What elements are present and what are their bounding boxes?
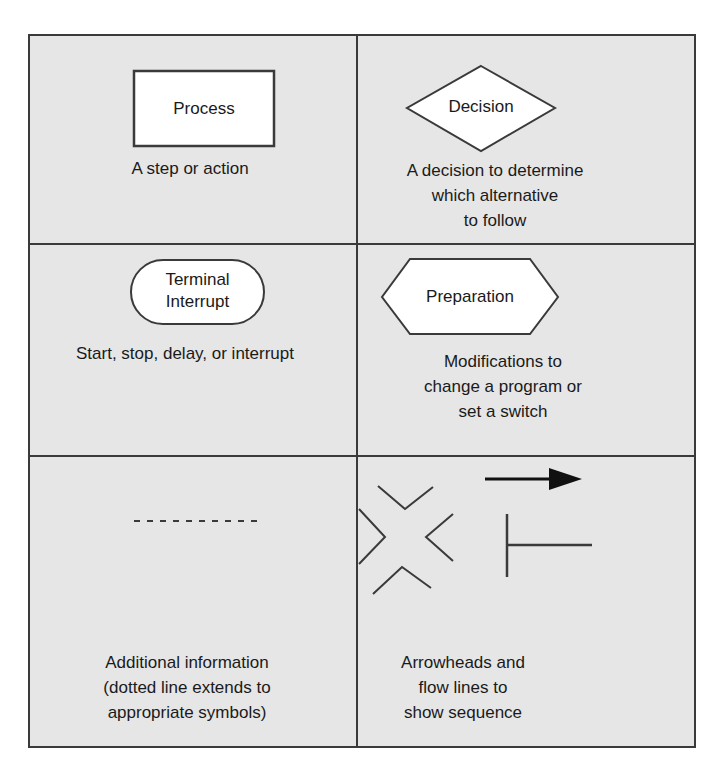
preparation-description: Modifications to change a program or set… [334,349,672,424]
description-line: Start, stop, delay, or interrupt [22,341,348,366]
cell-terminal: Terminal Interrupt Start, stop, delay, o… [30,245,356,455]
flowchart-symbols-table: Process A step or action Decision A deci… [28,34,696,748]
description-line: Modifications to [334,349,672,374]
description-line: change a program or [334,374,672,399]
description-line: flow lines to [294,675,632,700]
label-line: Terminal [131,269,264,291]
description-line: A step or action [30,156,350,181]
description-line: set a switch [334,399,672,424]
decision-description: A decision to determine which alternativ… [326,158,664,233]
description-line: Arrowheads and [294,650,632,675]
cell-preparation: Preparation Modifications to change a pr… [358,245,696,455]
description-line: A decision to determine [326,158,664,183]
process-rectangle-icon [30,36,356,243]
cell-flow-lines: Arrowheads and flow lines to show sequen… [358,457,696,748]
description-line: show sequence [294,700,632,725]
description-line: which alternative [326,183,664,208]
decision-label: Decision [421,96,541,118]
flow-lines-description: Arrowheads and flow lines to show sequen… [294,650,632,725]
process-label: Process [134,98,274,120]
terminal-description: Start, stop, delay, or interrupt [22,341,348,366]
cell-decision: Decision A decision to determine which a… [358,36,696,243]
preparation-label: Preparation [382,286,558,308]
cell-process: Process A step or action [30,36,356,243]
terminal-label: Terminal Interrupt [131,269,264,313]
label-line: Interrupt [131,291,264,313]
description-line: to follow [326,208,664,233]
process-description: A step or action [30,156,350,181]
